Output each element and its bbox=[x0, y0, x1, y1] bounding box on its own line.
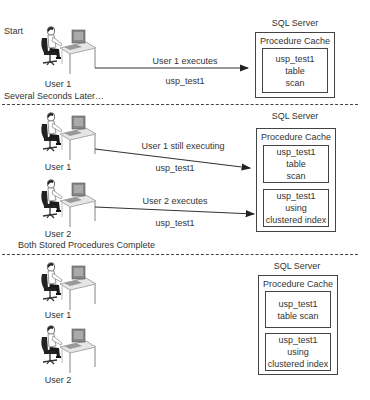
user-at-computer-icon bbox=[38, 323, 108, 378]
server-title: SQL Server bbox=[255, 111, 335, 121]
plan-line: usp_test1 bbox=[278, 298, 317, 310]
section-divider bbox=[2, 254, 358, 255]
plan-line: usp_test1 bbox=[276, 190, 315, 202]
cached-plan: usp_test1 using clustered index bbox=[265, 333, 331, 371]
panel-heading-start: Start bbox=[4, 26, 23, 36]
procedure-cache-box: Procedure Cache usp_test1 table scan bbox=[255, 32, 335, 98]
arrow-right-icon bbox=[95, 207, 254, 214]
arrow-label-below: usp_test1 bbox=[120, 218, 230, 228]
plan-line: clustered index bbox=[266, 214, 327, 226]
user-label: User 2 bbox=[38, 375, 78, 385]
user-label: User 2 bbox=[38, 229, 78, 239]
plan-line: scan bbox=[286, 170, 305, 182]
plan-line: using bbox=[285, 202, 307, 214]
cached-plan: usp_test1 table scan bbox=[265, 291, 331, 328]
panel-heading-later: Several Seconds Later… bbox=[4, 91, 104, 101]
user-label: User 1 bbox=[38, 310, 78, 320]
cache-title: Procedure Cache bbox=[257, 132, 335, 142]
plan-line: table scan bbox=[277, 310, 318, 322]
plan-line: clustered index bbox=[268, 358, 329, 370]
user-label: User 1 bbox=[38, 79, 78, 89]
procedure-cache-box: Procedure Cache usp_test1 table scan usp… bbox=[258, 275, 338, 375]
server-title: SQL Server bbox=[255, 18, 335, 28]
procedure-cache-box: Procedure Cache usp_test1 table scan usp… bbox=[256, 128, 336, 232]
cached-plan: usp_test1 using clustered index bbox=[263, 189, 329, 227]
plan-line: scan bbox=[285, 77, 304, 89]
plan-line: table bbox=[285, 65, 305, 77]
section-divider bbox=[2, 104, 358, 105]
plan-line: usp_test1 bbox=[276, 146, 315, 158]
user-at-computer-icon bbox=[38, 260, 108, 315]
arrow-label-above: User 1 still executing bbox=[128, 141, 238, 151]
plan-line: using bbox=[287, 346, 309, 358]
arrow-label-above: User 2 executes bbox=[120, 196, 230, 206]
user-label: User 1 bbox=[38, 162, 78, 172]
plan-line: usp_test1 bbox=[278, 334, 317, 346]
user-at-computer-icon bbox=[38, 24, 108, 79]
user-at-computer-icon bbox=[38, 110, 108, 165]
arrow-label-above: User 1 executes bbox=[130, 56, 240, 66]
plan-line: table bbox=[286, 158, 306, 170]
user-at-computer-icon bbox=[38, 177, 108, 232]
arrow-label-below: usp_test1 bbox=[120, 163, 230, 173]
cache-title: Procedure Cache bbox=[259, 279, 337, 289]
cached-plan: usp_test1 table scan bbox=[262, 48, 328, 93]
plan-line: usp_test1 bbox=[275, 53, 314, 65]
cached-plan: usp_test1 table scan bbox=[263, 145, 329, 183]
cache-title: Procedure Cache bbox=[256, 36, 334, 46]
arrow-label-below: usp_test1 bbox=[130, 76, 240, 86]
panel-heading-complete: Both Stored Procedures Complete bbox=[18, 240, 155, 250]
server-title: SQL Server bbox=[257, 261, 337, 271]
